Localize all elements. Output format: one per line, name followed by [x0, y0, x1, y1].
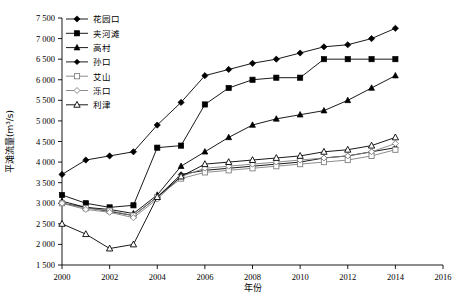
- marker-triangle-filled: [392, 72, 398, 78]
- x-tick-label-2016: 2016: [435, 272, 452, 282]
- marker-diamond-filled: [83, 157, 89, 163]
- marker-triangle-open: [74, 101, 80, 107]
- marker-square-filled: [74, 31, 79, 36]
- marker-triangle-open: [392, 134, 398, 140]
- marker-diamond-filled: [226, 66, 232, 72]
- marker-square-open: [74, 74, 79, 79]
- chart-figure: 1 5002 0002 5003 0003 5004 0004 5005 000…: [0, 0, 454, 298]
- series-line-高村: [62, 76, 395, 214]
- y-tick-label-7000: 7 000: [36, 34, 55, 44]
- series-line-夹河滩: [62, 59, 395, 207]
- y-tick-label-5500: 5 500: [36, 95, 55, 105]
- x-tick-label-2008: 2008: [244, 272, 261, 282]
- legend-label-泺口: 泺口: [93, 86, 111, 96]
- marker-diamond-filled: [368, 35, 374, 41]
- y-tick-label-1500: 1 500: [36, 260, 55, 270]
- legend-label-高村: 高村: [93, 43, 111, 53]
- marker-diamond-filled: [392, 25, 398, 31]
- legend: 花园口夹河滩高村孙口艾山泺口利津: [58, 8, 136, 112]
- marker-triangle-filled: [226, 134, 232, 140]
- legend-label-利津: 利津: [93, 100, 111, 110]
- marker-diamond-filled: [74, 16, 80, 22]
- marker-square-filled: [250, 77, 255, 82]
- marker-square-filled: [226, 85, 231, 90]
- legend-item-花园口[interactable]: 花园口: [66, 14, 120, 24]
- marker-square-filled: [321, 57, 326, 62]
- legend-label-花园口: 花园口: [93, 14, 120, 24]
- legend-item-高村[interactable]: 高村: [66, 43, 111, 53]
- x-tick-label-2000: 2000: [54, 272, 71, 282]
- marker-diamond-filled: [297, 50, 303, 56]
- marker-triangle-filled: [178, 163, 184, 169]
- legend-label-孙口: 孙口: [93, 57, 111, 67]
- legend-item-夹河滩[interactable]: 夹河滩: [66, 29, 120, 39]
- marker-square-filled: [202, 102, 207, 107]
- y-tick-label-3000: 3 000: [36, 198, 55, 208]
- marker-triangle-open: [130, 241, 136, 247]
- x-tick-label-2012: 2012: [339, 272, 356, 282]
- y-tick-label-6000: 6 000: [36, 75, 55, 85]
- marker-diamond-filled: [321, 44, 327, 50]
- x-axis-title: 年份: [244, 282, 262, 293]
- marker-square-filled: [155, 145, 160, 150]
- x-tick-label-2002: 2002: [101, 272, 118, 282]
- marker-square-filled: [274, 75, 279, 80]
- marker-diamond-filled-small: [74, 59, 79, 64]
- marker-square-filled: [131, 203, 136, 208]
- y-tick-label-4500: 4 500: [36, 137, 55, 147]
- y-tick-label-7500: 7 500: [36, 13, 55, 23]
- y-tick-label-2000: 2 000: [36, 239, 55, 249]
- x-tick-label-2014: 2014: [387, 272, 405, 282]
- marker-square-open: [393, 147, 398, 152]
- series-利津: [59, 134, 399, 251]
- y-tick-label-5000: 5 000: [36, 116, 55, 126]
- marker-diamond-open: [74, 88, 80, 94]
- marker-triangle-filled: [202, 149, 208, 155]
- y-tick-label-2500: 2 500: [36, 219, 55, 229]
- x-tick-label-2010: 2010: [292, 272, 309, 282]
- marker-square-filled: [178, 143, 183, 148]
- legend-item-利津[interactable]: 利津: [66, 100, 111, 110]
- marker-diamond-filled: [107, 153, 113, 159]
- marker-diamond-open: [392, 141, 398, 147]
- marker-square-filled: [298, 75, 303, 80]
- marker-square-filled: [345, 57, 350, 62]
- legend-label-艾山: 艾山: [93, 72, 111, 82]
- legend-item-艾山[interactable]: 艾山: [66, 72, 111, 82]
- series-line-利津: [62, 137, 395, 248]
- y-tick-label-6500: 6 500: [36, 54, 55, 64]
- marker-triangle-filled: [369, 85, 375, 91]
- y-tick-label-3500: 3 500: [36, 178, 55, 188]
- marker-diamond-filled: [249, 60, 255, 66]
- legend-item-泺口[interactable]: 泺口: [66, 86, 111, 96]
- marker-square-filled: [393, 57, 398, 62]
- marker-square-filled: [369, 57, 374, 62]
- legend-label-夹河滩: 夹河滩: [93, 29, 120, 39]
- y-tick-label-4000: 4 000: [36, 157, 55, 167]
- marker-triangle-filled: [345, 97, 351, 103]
- marker-diamond-filled: [59, 171, 65, 177]
- marker-diamond-filled: [273, 56, 279, 62]
- legend-item-孙口[interactable]: 孙口: [66, 57, 111, 67]
- chart-canvas: 1 5002 0002 5003 0003 5004 0004 5005 000…: [0, 0, 454, 298]
- x-tick-label-2006: 2006: [196, 272, 213, 282]
- marker-square-filled: [59, 192, 64, 197]
- x-tick-label-2004: 2004: [149, 272, 167, 282]
- marker-triangle-open: [59, 220, 65, 226]
- marker-diamond-filled: [345, 42, 351, 48]
- y-axis-title: 平滩流量(m³/s): [4, 110, 15, 173]
